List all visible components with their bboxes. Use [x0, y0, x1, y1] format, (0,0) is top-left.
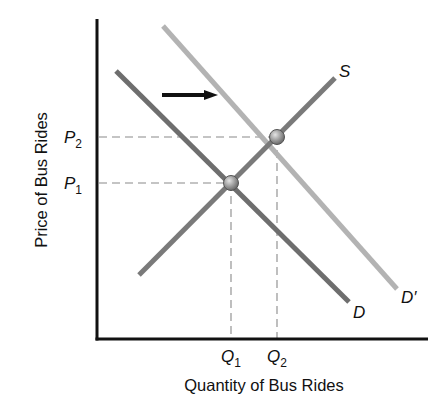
q1-tick-label: Q1	[221, 347, 241, 370]
demand-label: D	[353, 303, 365, 322]
demand-shifted-curve	[163, 26, 397, 289]
equilibrium-point-2	[270, 130, 285, 145]
shift-arrow-icon	[162, 90, 218, 100]
p1-tick-label: P1	[64, 174, 82, 197]
equilibrium-point-1	[224, 176, 239, 191]
q2-tick-label: Q2	[267, 347, 287, 370]
p2-tick-label: P2	[64, 128, 82, 151]
y-axis-title: Price of Bus Rides	[32, 112, 50, 248]
supply-demand-chart: S D′ D P2 P1 Q1 Q2 Quantity of Bus Rides…	[0, 0, 446, 415]
x-axis-title: Quantity of Bus Rides	[184, 376, 344, 394]
guide-lines	[99, 137, 277, 338]
demand-shifted-label: D′	[401, 288, 417, 307]
supply-label: S	[339, 62, 351, 81]
